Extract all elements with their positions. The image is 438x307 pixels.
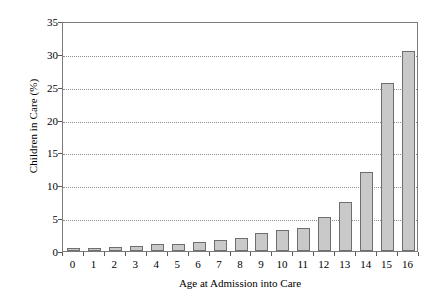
bar	[151, 244, 164, 251]
y-axis-tick-label: 20	[32, 116, 58, 127]
gridline	[63, 89, 417, 90]
bar	[297, 228, 310, 251]
gridline	[63, 122, 417, 123]
y-axis-tick-mark	[58, 219, 62, 220]
x-axis-tick-mark	[209, 252, 210, 256]
x-axis-tick-mark	[104, 252, 105, 256]
y-axis-tick-label: 25	[32, 83, 58, 94]
bar	[339, 202, 352, 251]
y-axis-tick-labels: 05101520253035	[26, 22, 58, 252]
bar	[360, 172, 373, 251]
y-axis-tick-mark	[58, 88, 62, 89]
x-axis-tick-mark	[62, 252, 63, 256]
plot-area	[62, 22, 418, 252]
bar	[67, 248, 80, 251]
bar	[381, 83, 394, 251]
y-axis-tick-label: 5	[32, 214, 58, 225]
bar	[235, 238, 248, 251]
y-axis-tick-mark	[58, 55, 62, 56]
bar	[255, 233, 268, 251]
x-axis-tick-mark	[271, 252, 272, 256]
x-axis-tick-mark	[313, 252, 314, 256]
x-axis-tick-mark	[397, 252, 398, 256]
y-axis-tick-label: 35	[32, 17, 58, 28]
x-axis-tick-mark	[250, 252, 251, 256]
x-axis-tick-mark	[125, 252, 126, 256]
bar	[172, 244, 185, 251]
bar	[214, 240, 227, 251]
bar	[318, 217, 331, 251]
x-axis-tick-mark	[83, 252, 84, 256]
y-axis-tick-mark	[58, 153, 62, 154]
y-axis-tick-label: 30	[32, 50, 58, 61]
x-axis-tick-mark	[418, 252, 419, 256]
bar	[88, 248, 101, 251]
y-axis-tick-mark	[58, 186, 62, 187]
x-axis-tick-mark	[230, 252, 231, 256]
y-axis-tick-mark	[58, 22, 62, 23]
x-axis-tick-mark	[334, 252, 335, 256]
x-axis-tick-mark	[376, 252, 377, 256]
x-axis-tick-mark	[146, 252, 147, 256]
bar	[276, 230, 289, 251]
y-axis-tick-label: 15	[32, 148, 58, 159]
x-axis-tick-mark	[355, 252, 356, 256]
bar-chart: Children in Care (%) 05101520253035 0123…	[0, 0, 438, 307]
x-axis-tick-mark	[292, 252, 293, 256]
y-axis-tick-label: 10	[32, 181, 58, 192]
bar	[109, 247, 122, 251]
y-axis-tick-label: 0	[32, 247, 58, 258]
gridline	[63, 56, 417, 57]
x-axis-title: Age at Admission into Care	[62, 277, 418, 289]
x-axis-tick-mark	[188, 252, 189, 256]
bar	[402, 51, 415, 251]
y-axis-tick-mark	[58, 121, 62, 122]
x-axis-tick-label: 16	[396, 258, 420, 270]
gridline	[63, 154, 417, 155]
bar	[130, 246, 143, 251]
x-axis-tick-mark	[167, 252, 168, 256]
y-axis-tick-mark	[58, 252, 62, 253]
bar	[193, 242, 206, 251]
